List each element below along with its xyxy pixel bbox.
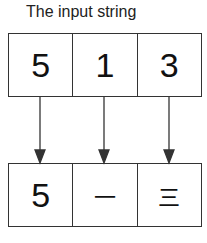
arrowhead-3-icon bbox=[164, 150, 174, 163]
arrowhead-1-icon bbox=[35, 150, 45, 163]
output-string-row: 5 一 三 bbox=[8, 163, 202, 227]
output-cell-3: 三 bbox=[138, 164, 201, 226]
output-cell-1: 5 bbox=[9, 164, 73, 226]
arrowhead-2-icon bbox=[99, 150, 109, 163]
output-cell-2: 一 bbox=[73, 164, 137, 226]
